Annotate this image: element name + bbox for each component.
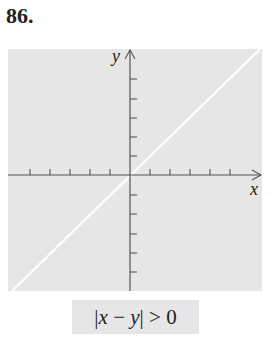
caption-var-y: y <box>130 305 139 330</box>
caption-minus: − <box>108 305 130 330</box>
inequality-graph: y x <box>0 0 272 300</box>
x-axis-label: x <box>249 179 258 199</box>
caption-var-x: x <box>99 305 108 330</box>
caption-rest: > 0 <box>144 305 177 330</box>
y-axis-label: y <box>110 46 120 66</box>
inequality-caption: | x − y | > 0 <box>72 300 199 334</box>
